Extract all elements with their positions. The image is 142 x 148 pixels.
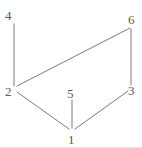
graph-edges-canvas — [0, 0, 142, 148]
vertex-label-6: 6 — [128, 13, 135, 26]
vertex-label-1: 1 — [68, 133, 75, 146]
vertex-label-2: 2 — [5, 85, 12, 98]
graph-figure: 123456 — [0, 0, 142, 148]
vertex-label-5: 5 — [67, 87, 74, 100]
edge-group — [14, 24, 131, 129]
graph-edge-3-1 — [75, 91, 128, 129]
graph-edge-2-1 — [17, 92, 69, 129]
graph-edge-2-6 — [17, 28, 130, 86]
vertex-label-4: 4 — [5, 9, 12, 22]
vertex-label-3: 3 — [128, 84, 135, 97]
